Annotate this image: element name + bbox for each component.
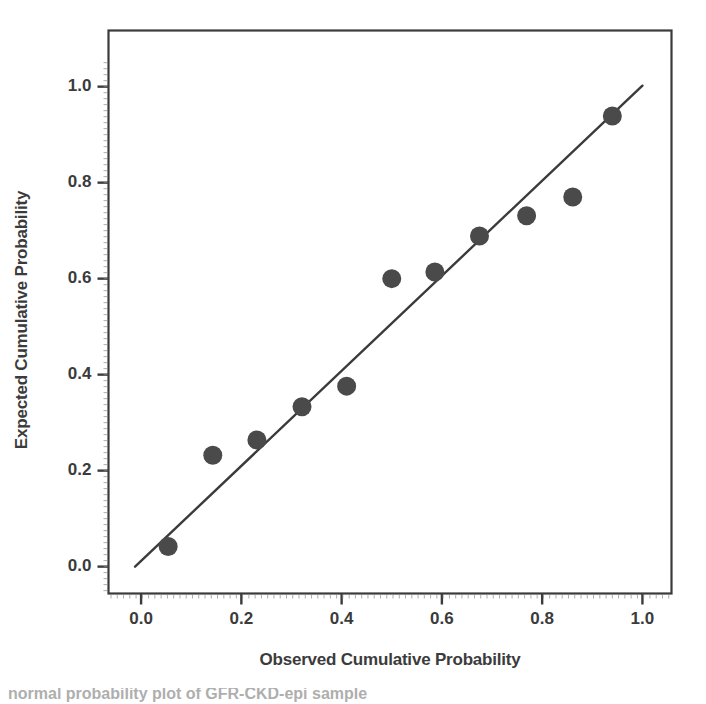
- chart-figure: 0.00.20.40.60.81.0 0.00.20.40.60.81.0 Ex…: [0, 0, 706, 704]
- x-tick-label: 1.0: [616, 609, 668, 629]
- data-point: [247, 430, 266, 449]
- y-tick-label: 0.2: [46, 460, 92, 480]
- axes-border: [109, 31, 672, 594]
- y-axis-title: Expected Cumulative Probability: [12, 40, 42, 600]
- data-point: [203, 446, 222, 465]
- x-tick-label: 0.6: [416, 609, 468, 629]
- data-point: [563, 188, 582, 207]
- clipped-caption-strip: normal probability plot of GFR-CKD-epi s…: [0, 688, 706, 704]
- data-point: [337, 377, 356, 396]
- y-tick-label: 0.4: [46, 364, 92, 384]
- figure-caption-partial: normal probability plot of GFR-CKD-epi s…: [8, 688, 367, 703]
- x-axis-title: Observed Cumulative Probability: [108, 650, 672, 670]
- x-tick-label: 0.2: [215, 609, 267, 629]
- x-tick-label: 0.0: [115, 609, 167, 629]
- data-point: [517, 206, 536, 225]
- y-tick-label: 0.8: [46, 172, 92, 192]
- data-point: [603, 106, 622, 125]
- reference-line-segment: [135, 86, 642, 567]
- axis-minor-ticks: [104, 63, 669, 599]
- y-tick-label: 0.0: [46, 556, 92, 576]
- normal-pp-plot-page: 0.00.20.40.60.81.0 0.00.20.40.60.81.0 Ex…: [0, 0, 706, 704]
- data-point: [425, 262, 444, 281]
- x-tick-label: 0.8: [516, 609, 568, 629]
- reference-line: [135, 86, 642, 567]
- chart-canvas: [0, 0, 706, 704]
- data-point-series: [159, 106, 622, 556]
- data-point: [293, 397, 312, 416]
- y-tick-label: 1.0: [46, 76, 92, 96]
- plot-frame: [109, 31, 672, 594]
- x-tick-label: 0.4: [316, 609, 368, 629]
- data-point: [159, 537, 178, 556]
- data-point: [470, 226, 489, 245]
- data-point: [382, 269, 401, 288]
- y-tick-label: 0.6: [46, 268, 92, 288]
